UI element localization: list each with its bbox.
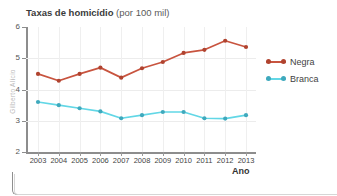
legend-swatch-icon xyxy=(266,58,286,66)
x-axis-tick-label: 2006 xyxy=(92,156,109,165)
top-clipped-strip: · · · · · · · · · · · xyxy=(0,0,336,6)
data-point xyxy=(57,103,61,107)
data-point xyxy=(140,66,144,70)
data-point xyxy=(161,60,165,64)
data-point xyxy=(57,79,61,83)
data-point xyxy=(119,76,123,80)
legend-item-branca[interactable]: Branca xyxy=(266,74,319,84)
top-clipped-text: · · · · · · · · · · · xyxy=(26,0,75,3)
data-point xyxy=(36,72,40,76)
data-point xyxy=(98,109,102,113)
x-axis-line xyxy=(26,152,256,154)
y-axis-tick-label: 6 xyxy=(16,23,20,31)
legend-swatch-icon xyxy=(266,75,286,83)
data-point xyxy=(223,39,227,43)
legend: NegraBranca xyxy=(266,57,319,84)
legend-label: Branca xyxy=(290,74,319,84)
x-axis-tick-label: 2013 xyxy=(238,156,255,165)
page-frame-inner xyxy=(14,174,337,195)
series-line-negra xyxy=(38,41,246,81)
data-point xyxy=(140,113,144,117)
data-point xyxy=(36,100,40,104)
image-credit: Gilberto Alício xyxy=(9,60,16,124)
data-point xyxy=(223,116,227,120)
x-axis-tick-label: 2012 xyxy=(217,156,234,165)
x-axis-tick-label: 2005 xyxy=(71,156,88,165)
x-axis-tick-label: 2004 xyxy=(50,156,67,165)
data-point xyxy=(244,45,248,49)
chart-title-sub: (por 100 mil) xyxy=(116,7,169,18)
data-point xyxy=(161,110,165,114)
y-axis-tick xyxy=(22,152,26,153)
x-axis-tick-label: 2009 xyxy=(154,156,171,165)
data-point xyxy=(98,66,102,70)
data-point xyxy=(78,72,82,76)
y-axis-tick-label: 3 xyxy=(16,117,20,125)
x-axis-tick-label: 2007 xyxy=(113,156,130,165)
data-point xyxy=(119,116,123,120)
data-point xyxy=(202,48,206,52)
chart-title: Taxas de homicídio (por 100 mil) xyxy=(26,7,169,18)
y-axis-tick-label: 4 xyxy=(16,86,20,94)
x-axis-tick-label: 2010 xyxy=(175,156,192,165)
y-axis-tick-label: 5 xyxy=(16,54,20,62)
chart-title-main: Taxas de homicídio xyxy=(26,7,113,18)
y-axis-tick-label: 2 xyxy=(16,148,20,156)
data-point xyxy=(182,51,186,55)
data-point xyxy=(182,110,186,114)
x-axis-tick-label: 2011 xyxy=(196,156,212,165)
data-point xyxy=(78,106,82,110)
legend-item-negra[interactable]: Negra xyxy=(266,57,319,67)
series-lines xyxy=(26,27,256,152)
data-point xyxy=(244,113,248,117)
x-axis-tick-label: 2008 xyxy=(134,156,151,165)
x-axis-tick-label: 2003 xyxy=(30,156,47,165)
plot-area: 23456 2003200420052006200720082009201020… xyxy=(26,27,256,152)
legend-label: Negra xyxy=(290,57,315,67)
data-point xyxy=(202,116,206,120)
